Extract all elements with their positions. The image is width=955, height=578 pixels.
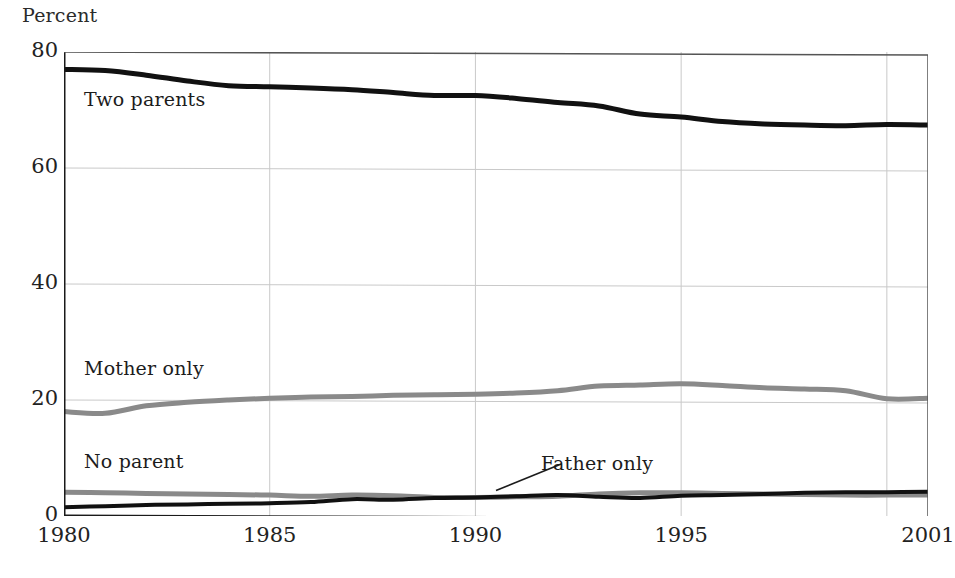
x-axis-tick-1985: 1985 [243, 523, 296, 547]
series-label-two-parents: Two parents [84, 88, 205, 110]
series-label-no-parent: No parent [84, 450, 184, 472]
x-axis-tick-2001: 2001 [901, 523, 954, 547]
gridlines [64, 52, 928, 516]
plot-area [64, 52, 928, 516]
series-line-mother-only [64, 384, 928, 414]
data-series [64, 69, 928, 507]
chart-svg [64, 52, 928, 516]
series-label-mother-only: Mother only [84, 357, 204, 379]
series-label-father-only: Father only [541, 452, 653, 474]
x-axis-tick-1990: 1990 [449, 523, 502, 547]
x-axis-tick-1980: 1980 [37, 523, 90, 547]
x-axis-tick-1995: 1995 [654, 523, 707, 547]
